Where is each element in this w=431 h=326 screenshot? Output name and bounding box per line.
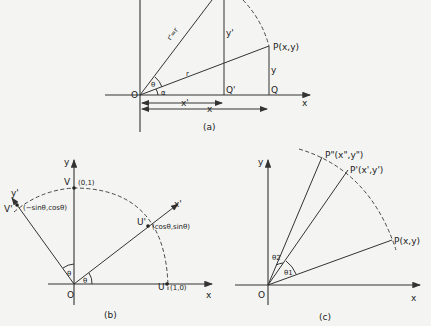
Q-prime-label: Q': [226, 85, 236, 95]
line-r: [140, 46, 269, 95]
line-OP-double-prime: [268, 157, 322, 285]
x-prime-length-label: x': [181, 98, 189, 108]
theta-arc-b1: [89, 273, 92, 284]
line-OP-prime: [268, 170, 348, 285]
point-P-label-a: P(x,y): [273, 42, 299, 52]
U-coords: (1,0): [170, 284, 187, 292]
P-prime-label-c: P'(x',y'): [350, 165, 383, 175]
y-length-label: y: [271, 65, 277, 75]
r-prime-label: r'=r: [166, 26, 181, 42]
y-axis-label-c: y: [258, 157, 264, 167]
x-prime-label-b: x': [174, 199, 182, 209]
y-prime-label-b: y': [11, 188, 19, 198]
y-axis-label-b: y: [64, 157, 70, 167]
P-double-prime-label-c: P"(x",y"): [325, 150, 363, 160]
figure-b: y x x' y' V (0,1) U (1,0) U' (cosθ,sinθ)…: [4, 157, 212, 320]
U-label: U: [158, 282, 165, 292]
V-prime-label: V': [4, 204, 13, 214]
caption-b: (b): [104, 310, 117, 320]
theta-arc-b2: [63, 264, 74, 268]
U-prime-label: U': [137, 217, 146, 227]
origin-label-a: O: [131, 90, 138, 100]
alpha-arc-a: [156, 89, 158, 95]
theta-label-a: θ: [151, 81, 155, 89]
x-axis-label-c: x: [411, 293, 417, 303]
theta-label-b2: θ: [67, 270, 71, 278]
origin-label-c: O: [258, 290, 265, 300]
theta2-label: θ2: [272, 254, 281, 262]
P-label-c: P(x,y): [394, 236, 420, 246]
x-prime-axis-b: [74, 204, 178, 284]
x-length-label: x: [207, 104, 213, 114]
point-V: [72, 186, 76, 190]
V-label: V: [64, 177, 71, 187]
figure-c: y x P(x,y) P'(x',y') P"(x",y") θ1 θ2 O (…: [235, 149, 420, 322]
theta-arc-a: [155, 77, 162, 87]
point-V-prime: [15, 203, 19, 207]
V-coords: (0,1): [78, 179, 95, 187]
caption-c: (c): [319, 312, 331, 322]
x-axis-label-a: x: [302, 98, 308, 108]
line-OP: [268, 240, 392, 285]
Q-label: Q: [271, 85, 278, 95]
theta-label-b1: θ: [83, 277, 87, 285]
x-axis-label-b: x: [206, 290, 212, 300]
origin-label-b: O: [67, 290, 74, 300]
y-prime-length-label: y': [226, 28, 234, 38]
rotation-diagrams: O x P(x,y) y y' Q' Q x' x r r'=r θ α (a)…: [0, 0, 431, 326]
point-U: [165, 282, 169, 286]
caption-a: (a): [203, 122, 216, 132]
alpha-label-a: α: [161, 89, 166, 97]
point-U-prime: [146, 224, 150, 228]
theta1-label: θ1: [284, 269, 293, 277]
V-prime-coords: (−sinθ,cosθ): [23, 204, 67, 212]
figure-a: O x P(x,y) y y' Q' Q x' x r r'=r θ α (a): [105, 0, 310, 132]
r-label: r: [186, 70, 189, 78]
U-prime-coords: (cosθ,sinθ): [152, 223, 190, 231]
arc-a: [243, 0, 269, 46]
